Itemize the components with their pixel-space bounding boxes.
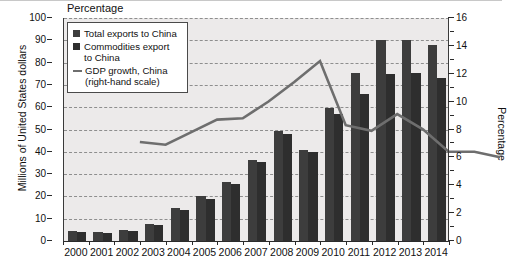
x-axis-label-2013: 2013	[399, 246, 422, 258]
right-axis-tickmark	[448, 212, 454, 213]
left-axis-tick-label: 30	[20, 169, 46, 179]
left-axis-tickmark	[47, 218, 52, 219]
x-axis-tickmark	[423, 241, 424, 245]
right-axis-tickmark	[448, 129, 454, 130]
x-axis-label-2008: 2008	[270, 246, 293, 258]
x-axis-label-2000: 2000	[64, 246, 87, 258]
right-axis-tickmark	[450, 170, 454, 171]
right-axis-tick-label: 4	[456, 180, 482, 190]
x-axis-tickmark	[449, 241, 450, 245]
right-axis-tickmark	[450, 198, 454, 199]
bar-total-exports	[93, 232, 102, 241]
x-axis-labels: 2000200120022003200420052006200720082009…	[63, 246, 449, 266]
x-axis-label-2003: 2003	[141, 246, 164, 258]
x-axis-tickmark	[166, 241, 167, 245]
right-axis-line	[448, 18, 449, 242]
right-axis-tickmark	[448, 101, 454, 102]
x-axis-label-2005: 2005	[193, 246, 216, 258]
right-axis-tickmark	[448, 73, 454, 74]
x-axis-tickmark	[269, 241, 270, 245]
x-axis-tickmark	[243, 241, 244, 245]
gridline	[64, 18, 449, 19]
right-axis-tickmark	[450, 59, 454, 60]
right-axis-tick-label: 10	[456, 97, 482, 107]
x-axis-label-2011: 2011	[348, 246, 371, 258]
right-axis-tick-label: 8	[456, 125, 482, 135]
legend-label-total-exports-line1: Total exports to China	[84, 28, 177, 39]
right-axis-tick-label: 14	[456, 41, 482, 51]
legend-label-gdp-line1: GDP growth, China	[85, 65, 167, 76]
right-axis-tick-label: 12	[456, 69, 482, 79]
x-axis-tickmark	[114, 241, 115, 245]
right-axis-tickmark	[450, 87, 454, 88]
right-axis-tickmark	[448, 184, 454, 185]
x-axis-label-2002: 2002	[116, 246, 139, 258]
left-axis-tick-label: 0	[20, 236, 46, 246]
x-axis-label-2007: 2007	[244, 246, 267, 258]
left-axis-tickmark	[47, 129, 52, 130]
x-axis-tickmark	[346, 241, 347, 245]
left-axis-tickmark	[47, 195, 52, 196]
left-axis-tick-label: 40	[20, 147, 46, 157]
x-axis-label-2010: 2010	[322, 246, 345, 258]
right-axis-tickmark	[450, 115, 454, 116]
left-axis-tickmark	[47, 62, 52, 63]
x-axis-line	[63, 241, 450, 242]
top-divider-rule	[0, 0, 502, 1]
left-axis-tick-label: 10	[20, 214, 46, 224]
x-axis-label-2004: 2004	[167, 246, 190, 258]
left-axis-tick-label: 80	[20, 58, 46, 68]
legend-item-gdp-growth: GDP growth, China (right-hand scale)	[73, 65, 182, 87]
right-axis-tick-label: 16	[456, 13, 482, 23]
right-axis-tickmark	[450, 226, 454, 227]
legend-swatch-gdp-line-icon	[73, 70, 82, 72]
x-axis-label-2001: 2001	[90, 246, 113, 258]
x-axis-tickmark	[295, 241, 296, 245]
left-axis-tickmark	[47, 106, 52, 107]
x-axis-tickmark	[372, 241, 373, 245]
legend-label-gdp-line2: (right-hand scale)	[85, 76, 160, 87]
right-axis-tickmark	[448, 45, 454, 46]
x-axis-tickmark	[192, 241, 193, 245]
x-axis-tickmark	[63, 241, 64, 245]
left-axis-tick-label: 50	[20, 125, 46, 135]
x-axis-tickmark	[398, 241, 399, 245]
legend-swatch-commodities-icon	[73, 43, 80, 50]
left-axis-tickmark	[47, 39, 52, 40]
legend-label-commodities-line1: Commodities export	[84, 41, 169, 52]
left-axis-tickmark	[47, 84, 52, 85]
legend-item-total-exports: Total exports to China	[73, 28, 182, 39]
x-axis-label-2006: 2006	[219, 246, 242, 258]
x-axis-tickmark	[140, 241, 141, 245]
left-axis-tick-label: 100	[20, 13, 46, 23]
left-axis-tick-label: 60	[20, 102, 46, 112]
right-axis-tickmark	[448, 17, 454, 18]
right-axis-tick-label: 6	[456, 152, 482, 162]
left-axis-tickmark	[47, 173, 52, 174]
right-axis-tick-label: 2	[456, 208, 482, 218]
left-axis-tickmark	[47, 151, 52, 152]
bar-commodities-export	[77, 232, 86, 241]
top-axis-title: Percentage	[67, 2, 123, 14]
right-axis-tickmark	[450, 31, 454, 32]
left-axis-tickmark	[47, 17, 52, 18]
right-axis-tickmark	[448, 156, 454, 157]
chart-legend: Total exports to China Commodities expor…	[67, 22, 188, 93]
x-axis-tickmark	[320, 241, 321, 245]
legend-item-commodities-export: Commodities export to China	[73, 41, 182, 63]
left-axis-tick-label: 20	[20, 191, 46, 201]
x-axis-label-2012: 2012	[373, 246, 396, 258]
left-axis-title: Millions of United States dollars	[16, 28, 28, 208]
right-axis-tick-label: 0	[456, 236, 482, 246]
right-axis-tickmark	[450, 142, 454, 143]
x-axis-label-2014: 2014	[424, 246, 447, 258]
x-axis-tickmark	[89, 241, 90, 245]
bar-total-exports	[68, 231, 77, 241]
x-axis-label-2009: 2009	[296, 246, 319, 258]
left-axis-tickmark	[47, 240, 52, 241]
legend-label-commodities-line2: to China	[84, 52, 120, 63]
left-axis-tick-label: 90	[20, 35, 46, 45]
x-axis-tickmark	[217, 241, 218, 245]
legend-swatch-total-exports-icon	[73, 30, 80, 37]
